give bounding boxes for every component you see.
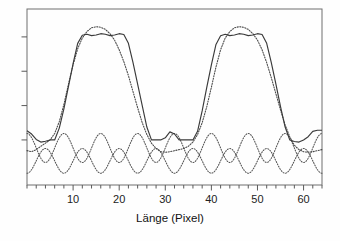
x-tick-label: 20 <box>113 193 125 205</box>
x-tick-label: 40 <box>205 193 217 205</box>
x-tick-label: 50 <box>251 193 263 205</box>
chart-figure: 102030405060 Länge (Pixel) <box>0 0 340 241</box>
x-axis-title: Länge (Pixel) <box>136 212 204 224</box>
x-tick-label: 30 <box>159 193 171 205</box>
x-tick-label: 10 <box>67 193 79 205</box>
plot-area: 102030405060 Länge (Pixel) <box>0 0 340 241</box>
x-tick-label: 60 <box>297 193 309 205</box>
